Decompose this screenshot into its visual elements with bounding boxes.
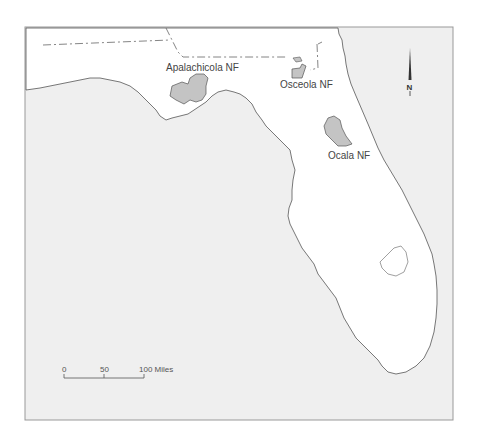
label-osceola-nf: Osceola NF	[280, 79, 333, 90]
label-apalachicola-nf: Apalachicola NF	[166, 62, 239, 73]
north-label: N	[407, 83, 413, 92]
label-ocala-nf: Ocala NF	[328, 150, 370, 161]
florida-map: Apalachicola NF Osceola NF Ocala NF N 0 …	[0, 0, 478, 442]
scale-tick-50: 50	[100, 365, 109, 374]
scale-tick-100-miles: 100 Miles	[139, 365, 173, 374]
scale-tick-0: 0	[62, 365, 67, 374]
